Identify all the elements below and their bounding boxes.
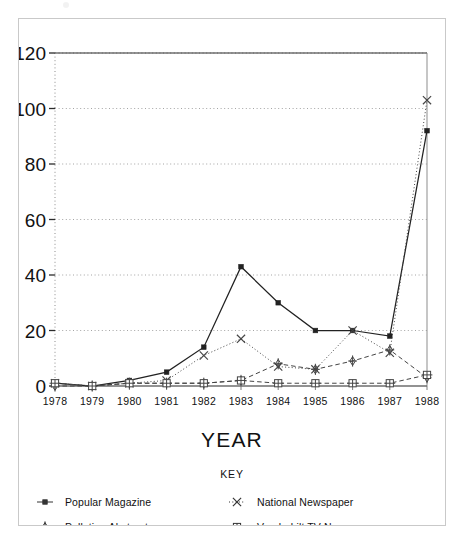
data-point-marker [161, 380, 172, 387]
x-tick-label: 1980 [117, 395, 142, 407]
data-point-marker [236, 377, 247, 384]
y-tick-label: 120 [19, 43, 46, 64]
data-point-marker [313, 328, 318, 333]
x-tick-label: 1985 [303, 395, 328, 407]
data-point-marker [124, 380, 135, 387]
data-point-marker [232, 523, 243, 525]
data-point-marker [388, 334, 393, 339]
x-tick-label: 1987 [378, 395, 403, 407]
data-point-marker [50, 380, 61, 387]
y-tick-label: 60 [25, 210, 46, 231]
data-point-marker [273, 380, 284, 387]
y-tick-label: 100 [19, 99, 46, 120]
data-series-group [50, 96, 433, 392]
data-point-marker [310, 380, 321, 387]
legend-item-3[interactable]: Pollution Abstracts [37, 521, 153, 525]
y-tick-label: 20 [25, 321, 46, 342]
data-point-marker [164, 370, 169, 375]
data-point-marker [239, 264, 244, 269]
data-point-marker [274, 358, 283, 369]
y-tick-label: 40 [25, 265, 46, 286]
x-axis-title: YEAR [201, 428, 263, 451]
legend-item-2[interactable]: National Newspaper [229, 496, 354, 508]
x-tick-label: 1981 [154, 395, 179, 407]
data-point-marker [422, 371, 433, 378]
data-point-marker [202, 345, 207, 350]
x-tick-label: 1988 [415, 395, 440, 407]
x-tick-label: 1983 [229, 395, 254, 407]
data-point-marker [41, 521, 50, 525]
x-tick-label: 1984 [266, 395, 291, 407]
data-point-marker [311, 364, 320, 375]
x-tick-label: 1986 [340, 395, 365, 407]
x-tick-labels-group: 1978197919801981198219831984198519861987… [43, 395, 440, 407]
data-point-marker [237, 335, 245, 343]
scan-artifact [63, 2, 69, 8]
y-tick-label: 0 [35, 376, 46, 397]
line-chart: 020406080100120 197819791980198119821983… [19, 19, 445, 525]
data-point-marker [425, 128, 430, 133]
data-point-marker [385, 344, 394, 355]
data-point-marker [200, 351, 208, 359]
series-line [55, 131, 427, 386]
series-line [55, 100, 427, 386]
data-point-marker [87, 382, 98, 389]
series-1 [53, 128, 430, 388]
x-tick-label: 1978 [43, 395, 68, 407]
axes-group [49, 53, 427, 390]
chart-figure-frame: 020406080100120 197819791980198119821983… [18, 18, 446, 526]
legend-label: Popular Magazine [65, 496, 151, 508]
data-point-marker [276, 300, 281, 305]
data-point-marker [43, 500, 48, 505]
legend-group: Popular MagazineNational NewspaperPollut… [37, 496, 354, 525]
legend-item-1[interactable]: Popular Magazine [37, 496, 151, 508]
data-point-marker [198, 380, 209, 387]
legend-label: Pollution Abstracts [65, 521, 153, 525]
x-tick-label: 1979 [80, 395, 105, 407]
data-point-marker [347, 380, 358, 387]
x-tick-label: 1982 [192, 395, 217, 407]
legend-label: Vanderbilt TV News [257, 521, 351, 525]
gridlines-group [55, 53, 427, 331]
data-point-marker [384, 380, 395, 387]
data-point-marker [348, 355, 357, 366]
y-tick-label: 80 [25, 154, 46, 175]
legend-item-4[interactable]: Vanderbilt TV News [229, 521, 351, 525]
legend-label: National Newspaper [257, 496, 354, 508]
y-tick-labels-group: 020406080100120 [19, 43, 46, 397]
series-2 [51, 96, 431, 390]
legend-title: KEY [220, 468, 243, 480]
